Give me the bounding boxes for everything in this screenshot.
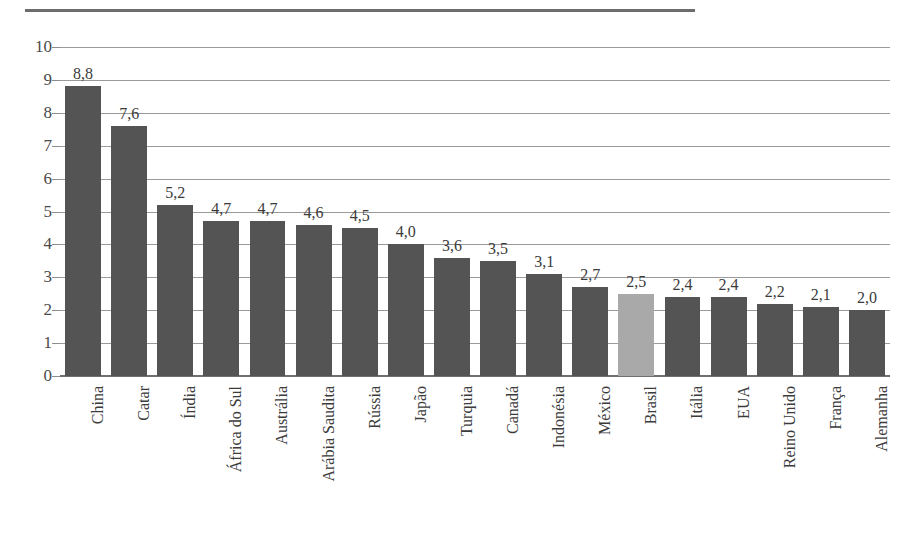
bar-slot: 3,6 [434, 47, 470, 376]
bar-value-label: 4,5 [328, 208, 392, 224]
y-tick-mark-10 [52, 47, 60, 48]
bar-rússia[interactable] [342, 228, 378, 376]
bar-value-label: 5,2 [143, 185, 207, 201]
x-axis-label-itália: Itália [688, 386, 706, 419]
bar-slot: 4,6 [296, 47, 332, 376]
x-label-slot: Canadá [480, 376, 516, 552]
x-axis-label-brasil: Brasil [642, 386, 660, 424]
bar-catar[interactable] [111, 126, 147, 376]
bar-slot: 4,0 [388, 47, 424, 376]
y-tick-mark-4 [52, 244, 60, 245]
x-axis-label-arábia-saudita: Arábia Saudita [320, 386, 338, 482]
bar-value-label: 8,8 [51, 66, 115, 82]
bar-slot: 7,6 [111, 47, 147, 376]
bar-slot: 4,5 [342, 47, 378, 376]
y-tick-label-10: 10 [18, 38, 52, 55]
bar-áfrica-do-sul[interactable] [203, 221, 239, 376]
x-axis-labels: ChinaCatarÍndiaÁfrica do SulAustráliaArá… [60, 376, 890, 552]
y-tick-mark-9 [52, 80, 60, 81]
x-axis-label-catar: Catar [135, 386, 153, 421]
y-tick-mark-8 [52, 113, 60, 114]
bar-indonésia[interactable] [526, 274, 562, 376]
bar-slot: 3,5 [480, 47, 516, 376]
top-divider [25, 9, 695, 12]
bar-slot: 2,0 [849, 47, 885, 376]
x-label-slot: Austrália [250, 376, 286, 552]
y-tick-label-2: 2 [18, 301, 52, 318]
bar-slot: 2,5 [618, 47, 654, 376]
bar-arábia-saudita[interactable] [296, 225, 332, 376]
x-label-slot: México [572, 376, 608, 552]
x-axis-label-china: China [89, 386, 107, 424]
y-tick-label-8: 8 [18, 104, 52, 121]
bar-slot: 2,4 [665, 47, 701, 376]
cropped-heading-fragment [28, 0, 118, 6]
x-label-slot: Catar [111, 376, 147, 552]
bar-slot: 8,8 [65, 47, 101, 376]
y-tick-label-1: 1 [18, 334, 52, 351]
bar-value-label: 7,6 [97, 106, 161, 122]
x-label-slot: Itália [665, 376, 701, 552]
bar-índia[interactable] [157, 205, 193, 376]
bar-alemanha[interactable] [849, 310, 885, 376]
bar-austrália[interactable] [250, 221, 286, 376]
x-label-slot: África do Sul [203, 376, 239, 552]
bar-slot: 5,2 [157, 47, 193, 376]
x-axis-label-alemanha: Alemanha [873, 386, 891, 452]
bar-méxico[interactable] [572, 287, 608, 376]
y-tick-label-4: 4 [18, 235, 52, 252]
y-tick-mark-7 [52, 146, 60, 147]
y-tick-label-9: 9 [18, 71, 52, 88]
y-tick-label-3: 3 [18, 268, 52, 285]
x-label-slot: França [803, 376, 839, 552]
x-label-slot: Rússia [342, 376, 378, 552]
y-tick-mark-1 [52, 343, 60, 344]
x-axis-label-méxico: México [596, 386, 614, 435]
x-axis-label-austrália: Austrália [273, 386, 291, 445]
y-tick-mark-2 [52, 310, 60, 311]
x-axis-label-índia: Índia [181, 386, 199, 419]
bar-slot: 4,7 [203, 47, 239, 376]
y-tick-mark-6 [52, 179, 60, 180]
x-label-slot: Reino Unido [757, 376, 793, 552]
bar-china[interactable] [65, 86, 101, 376]
bar-slot: 2,4 [711, 47, 747, 376]
bar-canadá[interactable] [480, 261, 516, 376]
y-tick-label-6: 6 [18, 170, 52, 187]
x-label-slot: Turquia [434, 376, 470, 552]
x-axis-label-turquia: Turquia [458, 386, 476, 436]
bar-brasil[interactable] [618, 294, 654, 376]
y-tick-label-5: 5 [18, 203, 52, 220]
bars-group: 8,87,65,24,74,74,64,54,03,63,53,12,72,52… [60, 47, 890, 376]
x-label-slot: Alemanha [849, 376, 885, 552]
bar-itália[interactable] [665, 297, 701, 376]
x-axis-label-reino-unido: Reino Unido [781, 386, 799, 468]
x-label-slot: Brasil [618, 376, 654, 552]
y-tick-label-0: 0 [18, 367, 52, 384]
y-tick-mark-3 [52, 277, 60, 278]
x-label-slot: EUA [711, 376, 747, 552]
bar-japão[interactable] [388, 244, 424, 376]
x-axis-label-áfrica-do-sul: África do Sul [227, 386, 245, 472]
bar-slot: 2,7 [572, 47, 608, 376]
y-tick-mark-5 [52, 212, 60, 213]
bar-eua[interactable] [711, 297, 747, 376]
x-axis-label-frança: França [827, 386, 845, 430]
bar-reino-unido[interactable] [757, 304, 793, 376]
x-axis-label-japão: Japão [412, 386, 430, 422]
x-label-slot: China [65, 376, 101, 552]
x-label-slot: Japão [388, 376, 424, 552]
bar-slot: 2,1 [803, 47, 839, 376]
bar-slot: 2,2 [757, 47, 793, 376]
bar-chart-figure: 012345678910 8,87,65,24,74,74,64,54,03,6… [0, 0, 921, 552]
y-tick-mark-0 [52, 376, 60, 377]
y-tick-label-7: 7 [18, 137, 52, 154]
x-label-slot: Índia [157, 376, 193, 552]
bar-frança[interactable] [803, 307, 839, 376]
bar-turquia[interactable] [434, 258, 470, 376]
x-axis-label-rússia: Rússia [366, 386, 384, 429]
x-axis-label-eua: EUA [735, 386, 753, 419]
bar-value-label: 2,0 [835, 290, 899, 306]
x-label-slot: Arábia Saudita [296, 376, 332, 552]
x-label-slot: Indonésia [526, 376, 562, 552]
